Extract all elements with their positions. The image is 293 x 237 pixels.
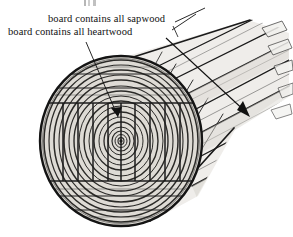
log-cross-section bbox=[40, 56, 202, 226]
label-heartwood: board contains all heartwood bbox=[8, 26, 132, 38]
scan-artifact bbox=[84, 0, 98, 6]
label-sapwood: board contains all sapwood bbox=[48, 13, 165, 25]
